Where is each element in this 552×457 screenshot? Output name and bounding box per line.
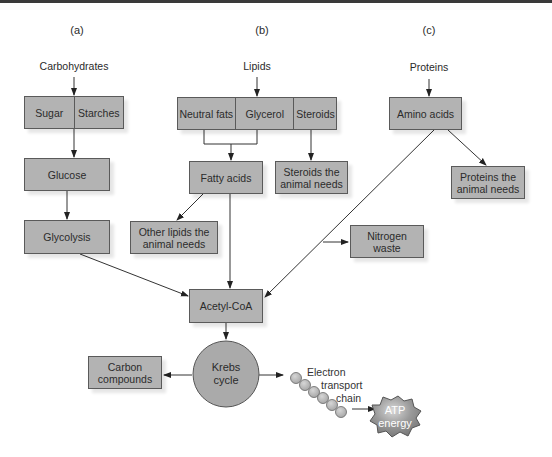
lipid-components-box: Neutral fats Glycerol Steroids bbox=[177, 97, 337, 130]
proteins-label: Proteins bbox=[410, 61, 449, 73]
glycolysis-box: Glycolysis bbox=[24, 220, 110, 254]
panel-label-c: (c) bbox=[423, 24, 436, 36]
sugar-starches-box: Sugar Starches bbox=[24, 96, 124, 129]
acetyl-coa-box: Acetyl-CoA bbox=[189, 289, 263, 323]
atp-label-line1: ATP bbox=[385, 404, 406, 417]
other-lipids-box: Other lipids the animal needs bbox=[130, 221, 218, 254]
sugar-cell: Sugar bbox=[25, 97, 74, 128]
atp-label-line2: energy bbox=[378, 417, 412, 430]
krebs-cycle-label: Krebs cycle bbox=[206, 361, 246, 387]
steroids-needed-box: Steroids the animal needs bbox=[275, 161, 348, 194]
panel-label-b: (b) bbox=[255, 24, 268, 36]
etc-label-line1: Electron bbox=[307, 366, 346, 378]
glycerol-cell: Glycerol bbox=[235, 98, 293, 129]
panel-label-a: (a) bbox=[70, 24, 83, 36]
etc-label-line3: chain bbox=[336, 392, 361, 404]
proteins-needed-box: Proteins the animal needs bbox=[451, 166, 525, 199]
neutral-fats-cell: Neutral fats bbox=[177, 98, 235, 129]
amino-acids-box: Amino acids bbox=[389, 97, 462, 130]
carbohydrates-label: Carbohydrates bbox=[40, 60, 109, 72]
nitrogen-waste-box: Nitrogen waste bbox=[350, 225, 424, 258]
starches-cell: Starches bbox=[74, 97, 124, 128]
glucose-box: Glucose bbox=[24, 158, 110, 191]
carbon-compounds-box: Carbon compounds bbox=[88, 356, 162, 389]
fatty-acids-box: Fatty acids bbox=[189, 161, 263, 194]
lipids-label: Lipids bbox=[243, 60, 270, 72]
steroids-cell: Steroids bbox=[293, 98, 337, 129]
etc-label-line2: transport bbox=[321, 379, 362, 391]
